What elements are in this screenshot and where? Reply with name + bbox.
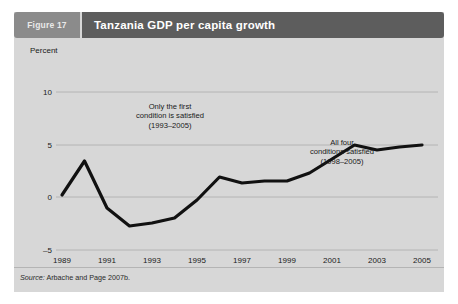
chart-plot-area: Percent 10 5 0 –5 1989 1991 1993 1995 19…	[14, 40, 444, 264]
annotation-second-line3: (1998–2005)	[292, 157, 392, 166]
figure-title-box: Tanzania GDP per capita growth	[82, 12, 444, 38]
annotation-first-line2: condition is satisfied	[122, 111, 218, 120]
annotation-second-line2: conditions satisfied	[292, 147, 392, 156]
figure-title: Tanzania GDP per capita growth	[82, 19, 275, 31]
figure-number-box: Figure 17	[14, 12, 80, 38]
figure-header: Figure 17 Tanzania GDP per capita growth	[14, 12, 444, 38]
source-note: Source: Arbache and Page 2007b.	[20, 273, 130, 282]
annotation-second-line1: All four	[292, 138, 392, 147]
figure-number-label: Figure 17	[27, 20, 67, 30]
figure-card: Figure 17 Tanzania GDP per capita growth…	[14, 12, 444, 292]
source-divider: Source: Arbache and Page 2007b.	[14, 267, 444, 293]
annotation-first-line3: (1993–2005)	[122, 121, 218, 130]
annotation-first-line1: Only the first	[122, 102, 218, 111]
annotation-all-conditions: All four conditions satisfied (1998–2005…	[292, 138, 392, 166]
annotation-first-condition: Only the first condition is satisfied (1…	[122, 102, 218, 130]
source-body: Arbache and Page 2007b.	[45, 273, 130, 282]
source-prefix: Source:	[20, 273, 45, 282]
